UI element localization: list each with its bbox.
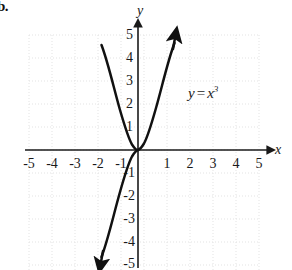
y-tick-2: 2 [126,97,133,111]
x-tick--4: -4 [46,157,58,171]
y-axis-label: y [137,4,143,18]
axis-lines [25,26,268,268]
y-tick-1: 1 [126,120,133,134]
equation-equals-sign: = [195,85,207,101]
y-tick-5: 5 [126,28,133,42]
equation-exponent: 3 [214,84,219,94]
equation-y-term: y [188,85,195,101]
x-tick-2: 2 [187,157,194,171]
graph-canvas [0,0,292,270]
y-tick--3: -3 [123,212,135,226]
y-tick--5: -5 [123,257,135,270]
cubic-function-figure: b. [0,0,292,270]
x-tick--2: -2 [92,157,104,171]
y-tick-4: 4 [126,51,133,65]
equation-x-term: x [207,85,214,101]
grid-lines [29,35,259,270]
y-tick--4: -4 [123,235,135,249]
x-tick--3: -3 [69,157,81,171]
x-axis-label: x [275,143,281,157]
y-tick--2: -2 [123,189,135,203]
y-tick-3: 3 [126,74,133,88]
x-tick-5: 5 [256,157,263,171]
x-tick-4: 4 [233,157,240,171]
y-tick--1: -1 [123,166,135,180]
x-tick-3: 3 [210,157,217,171]
x-tick--5: -5 [23,157,35,171]
curve-equation-label: y=x3 [188,86,218,101]
x-tick-1: 1 [164,157,171,171]
